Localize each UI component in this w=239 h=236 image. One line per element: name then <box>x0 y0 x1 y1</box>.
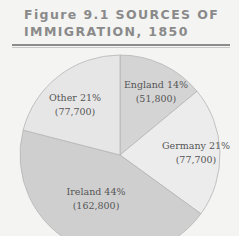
label-ireland: Ireland 44% (162,800) <box>67 185 126 213</box>
label-ireland-pct: Ireland 44% <box>67 185 126 199</box>
label-england-pct: England 14% <box>124 78 188 92</box>
label-other-count: (77,700) <box>49 105 101 119</box>
label-germany-pct: Germany 21% <box>162 139 230 153</box>
label-other-pct: Other 21% <box>49 91 101 105</box>
label-england: England 14% (51,800) <box>124 78 188 106</box>
label-other: Other 21% (77,700) <box>49 91 101 119</box>
label-ireland-count: (162,800) <box>67 199 126 213</box>
label-england-count: (51,800) <box>124 92 188 106</box>
label-germany-count: (77,700) <box>162 153 230 167</box>
label-germany: Germany 21% (77,700) <box>162 139 230 167</box>
